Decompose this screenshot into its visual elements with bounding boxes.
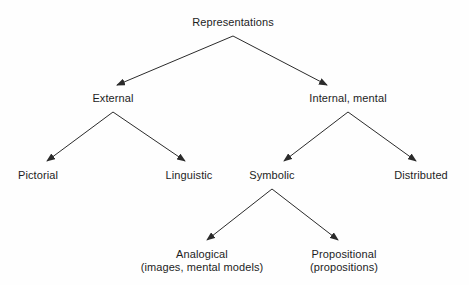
node-symbolic: Symbolic bbox=[249, 169, 294, 182]
node-distributed: Distributed bbox=[394, 169, 448, 182]
edge-group bbox=[47, 36, 416, 240]
edge-representations-to-external bbox=[117, 36, 233, 85]
node-sublabel: (propositions) bbox=[310, 261, 378, 274]
node-representations: Representations bbox=[192, 16, 274, 29]
node-propositional: Propositional (propositions) bbox=[310, 248, 378, 274]
node-label: Propositional bbox=[312, 248, 377, 260]
node-label: Symbolic bbox=[249, 169, 294, 181]
node-sublabel: (images, mental models) bbox=[141, 261, 264, 274]
node-analogical: Analogical (images, mental models) bbox=[141, 248, 264, 274]
node-label: Analogical bbox=[176, 248, 228, 260]
node-pictorial: Pictorial bbox=[18, 169, 58, 182]
node-internal-mental: Internal, mental bbox=[309, 92, 386, 105]
node-label: Distributed bbox=[394, 169, 448, 181]
node-linguistic: Linguistic bbox=[166, 169, 213, 182]
node-label: Linguistic bbox=[166, 169, 213, 181]
node-label: External bbox=[92, 92, 133, 104]
edge-symbolic-to-propositional bbox=[272, 189, 338, 240]
edge-external-to-linguistic bbox=[113, 112, 185, 161]
node-external: External bbox=[92, 92, 133, 105]
edge-symbolic-to-analogical bbox=[207, 189, 272, 240]
diagram-canvas: Representations External Internal, menta… bbox=[0, 0, 469, 285]
edge-internal-mental-to-distributed bbox=[348, 112, 416, 161]
edge-layer bbox=[0, 0, 469, 285]
node-label: Internal, mental bbox=[309, 92, 386, 104]
edge-internal-mental-to-symbolic bbox=[284, 112, 348, 161]
edge-external-to-pictorial bbox=[47, 112, 113, 161]
node-label: Pictorial bbox=[18, 169, 58, 181]
edge-representations-to-internal-mental bbox=[233, 36, 327, 85]
node-label: Representations bbox=[192, 16, 274, 28]
